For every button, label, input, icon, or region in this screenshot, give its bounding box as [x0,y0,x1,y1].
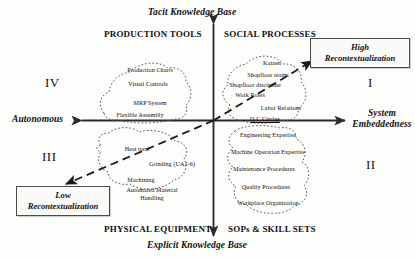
quadrant-heading-social-processes: SOCIAL PROCESSES [224,30,316,40]
quadrant-number-two: II [366,158,376,172]
axis-label-system-embeddedness: System Embeddedness [351,108,413,130]
cluster-item-automated-material: Automated Material [127,187,178,194]
quadrant-heading-sops-skill-sets: SOPs & SKILL SETS [228,225,316,235]
cluster-item-handling: Handling [140,195,163,202]
cluster-item-heat-treat: Heat treat [125,146,150,153]
cluster-item-grinding: Grinding (UA1-6) [149,161,195,168]
cluster-item-labor-relations: Labor Relations [261,105,301,112]
cluster-item-visual-controls: Visual Controls [128,81,167,88]
quadrant-number-one: I [368,76,373,90]
cluster-item-flexible-assembly: Flexible Assembly [116,112,163,119]
callout-high-line2: Recontextualization [325,53,396,63]
cluster-item-workplace-organization: Workplace Organization [237,200,298,207]
callout-low-line2: Recontextualization [28,201,99,211]
axis-label-tacit-knowledge-base: Tacit Knowledge Base [148,7,236,17]
cluster-item-machine-operation-expertise: Machine Operation Expertise [231,149,305,156]
cluster-item-production-charts: Production Charts [127,67,173,74]
cluster-item-shopfloor-teams: Shopfloor teams [247,72,288,79]
cluster-item-engineering-expertise: Engineering Expertise [240,132,296,139]
quadrant-heading-production-tools: PRODUCTION TOOLS [104,30,202,40]
cluster-item-mrp-system: MRP System [133,100,166,107]
cluster-item-machining: Machining [127,177,154,184]
cluster-item-work-roles: Work Roles [235,92,265,99]
callout-high-line1: High [351,42,369,52]
axis-label-explicit-knowledge-base: Explicit Knowledge Base [147,240,247,250]
diagram-canvas: Tacit Knowledge Base Explicit Knowledge … [0,0,415,260]
quadrant-number-four: IV [45,76,60,90]
cluster-item-quality-procedures: Quality Procedures [242,184,291,191]
callout-low-line1: Low [55,190,70,200]
cluster-item-maintenance-procedures: Maintenance Procedures [233,166,295,173]
axis-label-system: System [368,108,396,118]
cluster-item-qc-circles: Q C Circles [250,116,280,123]
callout-low-recontextualization: Low Recontextualization [16,186,110,216]
cluster-item-shopfloor-discipline: Shopfloor discipline [229,82,280,89]
quadrant-number-three: III [42,150,57,164]
cluster-item-kaizen: Kaizen [263,60,281,67]
axis-label-embeddedness: Embeddedness [352,119,411,129]
axis-label-autonomous: Autonomous [12,114,63,124]
quadrant-heading-physical-equipment: PHYSICAL EQUIPMENT [104,225,211,235]
callout-high-recontextualization: High Recontextualization [310,38,410,68]
